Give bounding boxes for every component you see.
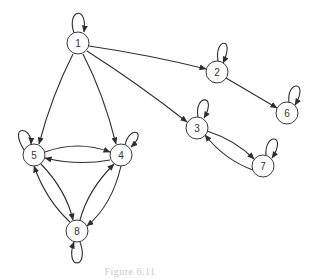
node-label: 1 <box>75 38 81 49</box>
edge-1-1 <box>72 13 84 33</box>
node-2: 2 <box>206 61 228 83</box>
node-1: 1 <box>67 32 89 54</box>
node-label: 3 <box>194 123 200 134</box>
edge-2-2 <box>218 43 228 63</box>
node-label: 6 <box>284 108 290 119</box>
edge-8-8 <box>72 242 83 263</box>
node-5: 5 <box>23 144 45 166</box>
node-label: 2 <box>214 67 220 78</box>
figure-caption: Figure 6.11 <box>0 266 260 277</box>
edge-3-3 <box>198 100 209 118</box>
edge-8-4 <box>80 164 114 220</box>
edge-8-5 <box>34 166 70 222</box>
node-8: 8 <box>66 220 88 242</box>
node-4: 4 <box>110 144 132 166</box>
edge-4-4 <box>125 132 138 147</box>
node-label: 8 <box>74 226 80 237</box>
edges <box>18 13 299 263</box>
directed-graph: 1 2 3 4 5 6 7 8 <box>0 0 320 279</box>
node-3: 3 <box>186 117 208 139</box>
node-label: 5 <box>31 150 37 161</box>
node-6: 6 <box>276 102 298 124</box>
node-label: 4 <box>118 150 124 161</box>
edge-1-3 <box>87 51 187 122</box>
edge-1-2 <box>89 46 206 69</box>
edge-5-4 <box>45 146 110 152</box>
node-7: 7 <box>252 155 274 177</box>
edge-7-7 <box>266 139 278 158</box>
edge-2-6 <box>226 78 277 108</box>
node-label: 7 <box>260 161 266 172</box>
edge-4-5 <box>45 158 110 163</box>
edge-1-4 <box>83 54 116 144</box>
edge-1-5 <box>39 54 73 144</box>
